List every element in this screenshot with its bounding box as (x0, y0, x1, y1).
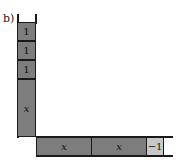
column-tile-x: x (17, 79, 36, 137)
column-tile-1: 1 (17, 22, 36, 41)
row-tile-x-1: x (36, 137, 92, 156)
tile-label: 1 (23, 64, 29, 75)
tile-label: x (61, 141, 67, 152)
tile-label: 1 (23, 45, 29, 56)
tile-label: 1 (23, 26, 29, 37)
tile-label: x (116, 141, 122, 152)
row-tile-x-2: x (91, 137, 147, 156)
tile-label: x (24, 103, 30, 114)
column-tile-2: 1 (17, 41, 36, 60)
diagram-label: b) (3, 12, 14, 25)
column-tile-3: 1 (17, 60, 36, 79)
tile-label: −1 (148, 141, 163, 152)
row-tile-neg-1: −1 (146, 137, 164, 156)
